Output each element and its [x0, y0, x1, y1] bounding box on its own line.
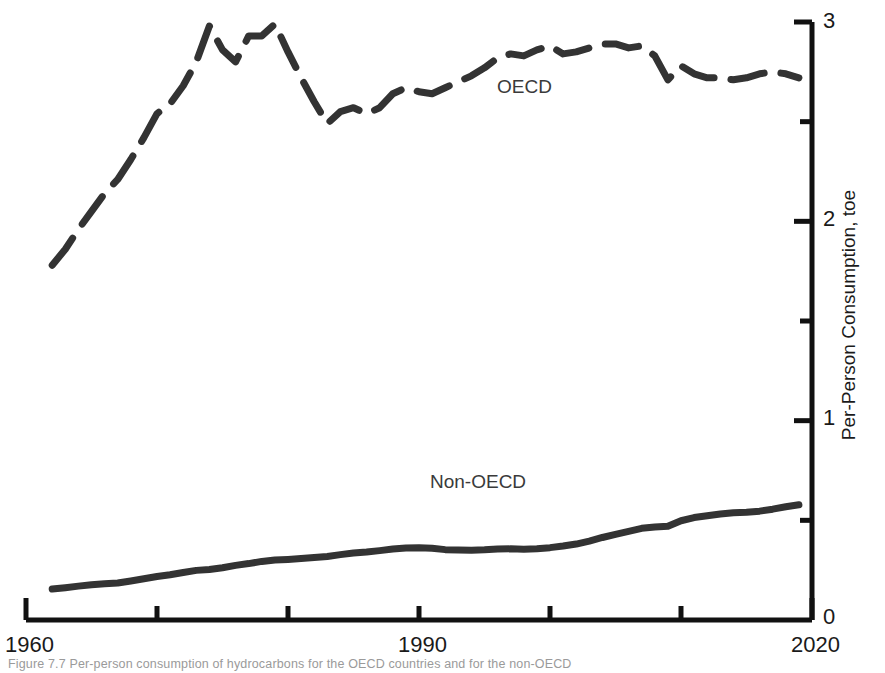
y-tick-label-0: 0 — [823, 604, 835, 630]
chart-series — [52, 24, 799, 589]
y-tick-label-2: 2 — [823, 206, 835, 232]
y-tick-label-1: 1 — [823, 405, 835, 431]
chart-plot-area — [0, 0, 885, 673]
series-label-non-oecd: Non-OECD — [430, 471, 526, 493]
chart-axes — [26, 22, 812, 620]
series-label-oecd: OECD — [497, 76, 552, 98]
figure-container: 3 2 1 0 1960 1990 2020 Per-Person Consum… — [0, 0, 885, 673]
y-tick-label-3: 3 — [823, 8, 835, 34]
figure-caption: Figure 7.7 Per-person consumption of hyd… — [8, 655, 878, 673]
